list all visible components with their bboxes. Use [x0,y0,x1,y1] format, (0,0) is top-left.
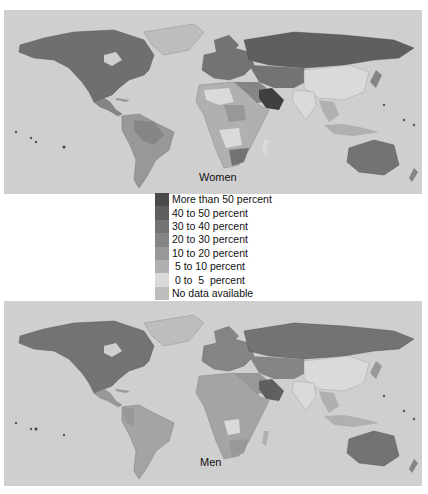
legend-label: 20 to 30 percent [172,233,248,246]
legend-label: 5 to 10 percent [172,260,245,273]
legend-swatch [155,220,169,233]
legend-swatch [155,247,169,260]
legend-item: More than 50 percent [155,193,285,206]
legend-item: 10 to 20 percent [155,247,285,260]
legend-item: 30 to 40 percent [155,220,285,233]
legend-swatch [155,233,169,246]
map-men: Men [4,301,422,486]
legend-label: 0 to 5 percent [172,274,245,287]
map-women: Women [4,10,422,194]
legend-item: 20 to 30 percent [155,233,285,246]
legend-swatch [155,287,169,300]
map-title-women: Women [199,171,237,183]
legend-label: 30 to 40 percent [172,220,248,233]
legend-label: More than 50 percent [172,193,272,206]
legend-swatch [155,206,169,219]
legend-swatch [155,193,169,206]
legend-label: No data available [172,287,253,300]
legend: More than 50 percent 40 to 50 percent 30… [155,193,285,300]
legend-item: No data available [155,287,285,300]
legend-item: 0 to 5 percent [155,273,285,286]
legend-swatch [155,273,169,286]
legend-label: 10 to 20 percent [172,247,248,260]
legend-item: 5 to 10 percent [155,260,285,273]
legend-swatch [155,260,169,273]
map-title-men: Men [200,456,221,468]
world-map-women [4,10,422,194]
legend-label: 40 to 50 percent [172,207,248,220]
legend-item: 40 to 50 percent [155,206,285,219]
